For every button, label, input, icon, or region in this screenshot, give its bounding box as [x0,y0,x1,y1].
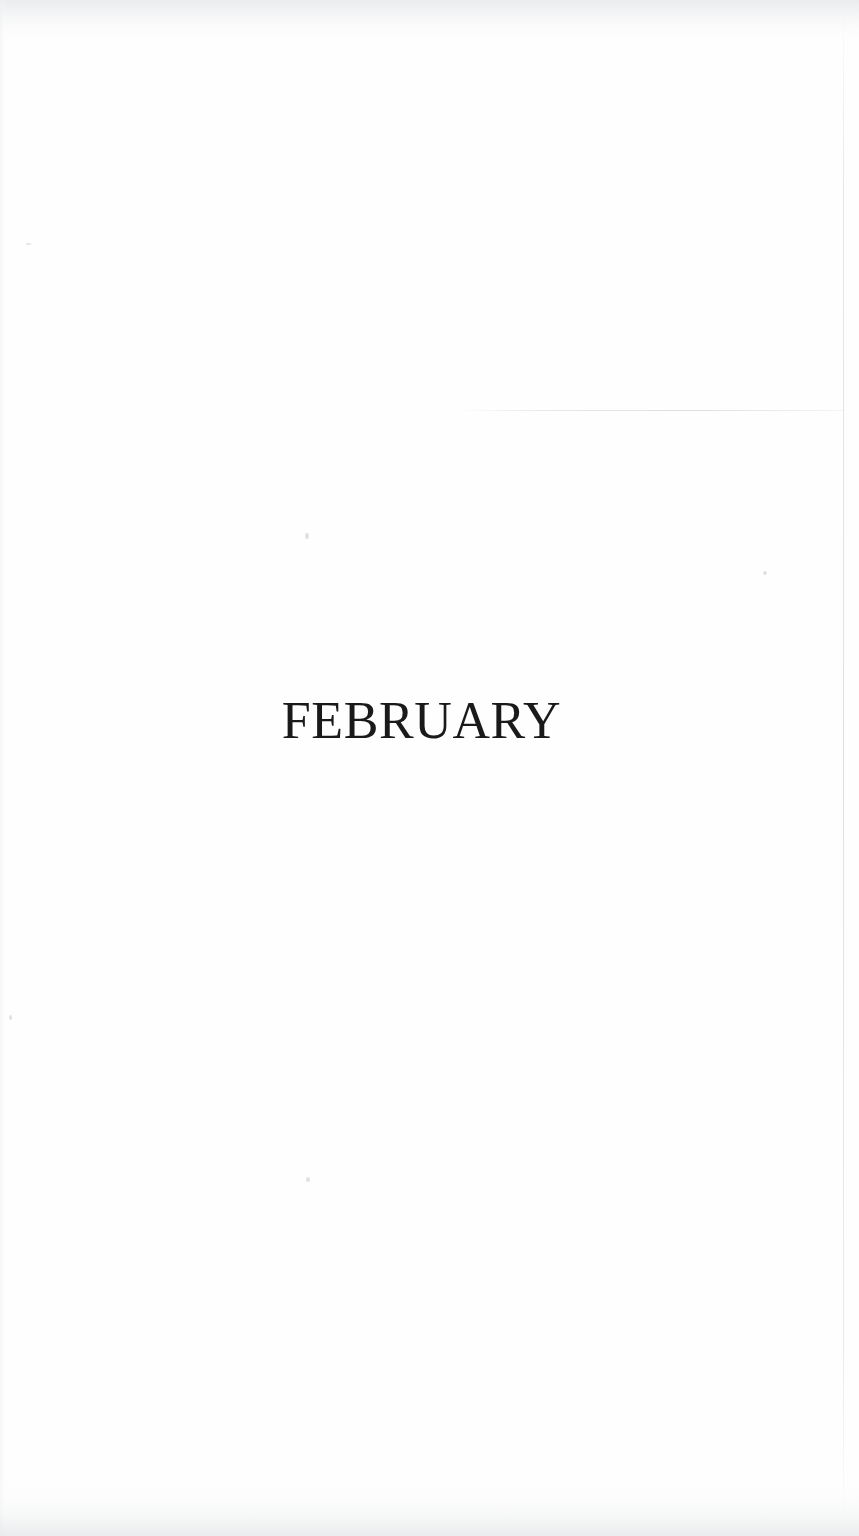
scan-shadow-top [0,0,859,46]
scanned-page: FEBRUARY [0,0,859,1536]
scan-speck [26,243,31,245]
scan-speck [305,533,309,539]
scan-speck [306,1177,310,1182]
scan-speck [9,1015,12,1020]
page-title: FEBRUARY [0,695,843,747]
page-edge-left [0,0,7,1536]
scan-speck [763,571,767,575]
horizontal-scan-artifact [455,410,845,411]
scan-shadow-bottom [0,1476,859,1536]
page-edge-right-line [843,0,844,1536]
